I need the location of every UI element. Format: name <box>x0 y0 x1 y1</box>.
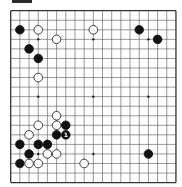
black-stone[interactable] <box>34 140 43 149</box>
black-stone[interactable] <box>52 131 61 140</box>
white-stone[interactable] <box>25 159 34 168</box>
go-board[interactable]: 1 <box>0 0 182 187</box>
black-stone-disc <box>34 54 43 63</box>
white-stone-disc <box>43 150 52 159</box>
white-stone[interactable] <box>52 111 61 120</box>
black-stone-disc <box>144 150 153 159</box>
black-stone[interactable]: 1 <box>61 131 70 140</box>
star-point <box>147 95 149 97</box>
black-stone[interactable] <box>144 150 153 159</box>
white-stone[interactable] <box>80 159 89 168</box>
white-stone[interactable] <box>34 73 43 82</box>
white-stone[interactable] <box>89 26 98 35</box>
white-stone-disc <box>52 150 61 159</box>
white-stone[interactable] <box>43 150 52 159</box>
white-stone-disc <box>25 131 34 140</box>
black-stone-disc <box>43 140 52 149</box>
white-stone-disc <box>34 73 43 82</box>
black-stone-disc <box>25 150 34 159</box>
black-stone-disc <box>153 35 162 44</box>
black-stone[interactable] <box>43 140 52 149</box>
black-stone-disc <box>25 45 34 54</box>
black-stone-disc <box>16 140 25 149</box>
white-stone-disc <box>89 26 98 35</box>
white-stone-disc <box>34 159 43 168</box>
white-stone[interactable] <box>52 121 61 130</box>
move-number-label: 1 <box>64 131 68 138</box>
star-point <box>37 38 39 40</box>
black-stone[interactable] <box>25 45 34 54</box>
white-stone[interactable] <box>34 159 43 168</box>
black-stone-disc <box>16 26 25 35</box>
star-point <box>37 95 39 97</box>
black-stone[interactable] <box>25 150 34 159</box>
black-stone-disc <box>34 140 43 149</box>
white-stone-disc <box>25 159 34 168</box>
black-stone-disc <box>61 121 70 130</box>
black-stone[interactable] <box>16 159 25 168</box>
black-stone[interactable] <box>34 54 43 63</box>
black-stone-disc <box>52 131 61 140</box>
black-stone-disc <box>16 159 25 168</box>
star-point <box>147 38 149 40</box>
star-point <box>92 95 94 97</box>
white-stone[interactable] <box>25 131 34 140</box>
white-stone-disc <box>52 35 61 44</box>
white-stone-disc <box>52 121 61 130</box>
black-stone-disc <box>135 26 144 35</box>
black-stone[interactable] <box>153 35 162 44</box>
white-stone-disc <box>34 26 43 35</box>
white-stone[interactable] <box>52 35 61 44</box>
white-stone-disc <box>52 111 61 120</box>
black-stone[interactable] <box>16 26 25 35</box>
star-point <box>92 153 94 155</box>
star-point <box>37 153 39 155</box>
star-point <box>92 38 94 40</box>
white-stone-disc <box>80 159 89 168</box>
black-stone[interactable] <box>61 121 70 130</box>
black-stone[interactable] <box>135 26 144 35</box>
white-stone[interactable] <box>52 150 61 159</box>
black-stone[interactable] <box>16 140 25 149</box>
white-stone-disc <box>34 121 43 130</box>
white-stone[interactable] <box>34 26 43 35</box>
white-stone[interactable] <box>34 121 43 130</box>
